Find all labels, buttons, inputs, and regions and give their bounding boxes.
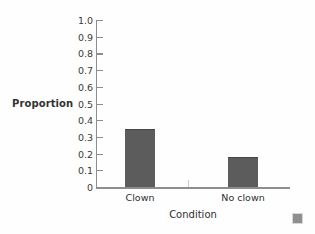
y-tick-mark	[97, 70, 103, 71]
y-tick-0p8: 0.8	[58, 48, 103, 59]
y-tick-mark	[97, 120, 103, 121]
y-tick-mark	[97, 170, 103, 171]
y-tick-label: 0.1	[78, 165, 93, 176]
y-tick-label: 0.4	[78, 115, 93, 126]
y-tick-label: 0.5	[78, 99, 93, 110]
y-tick-0p2: 0.2	[58, 149, 103, 160]
y-tick-label: 0.8	[78, 48, 93, 59]
y-tick-mark	[97, 104, 103, 105]
y-tick-0p3: 0.3	[58, 132, 103, 143]
y-tick-0: 0	[58, 182, 103, 193]
plot-area: 1.0 0.9 0.8 0.7 0.6 0.5 0.4 0.3	[0, 0, 315, 234]
y-tick-label: 0.9	[78, 32, 93, 43]
bar-chart-figure: Proportion 1.0 0.9 0.8 0.7 0.6 0.5	[0, 0, 315, 234]
y-tick-label: 0	[87, 182, 93, 193]
y-tick-0p9: 0.9	[58, 32, 103, 43]
y-tick-0p6: 0.6	[58, 82, 103, 93]
x-category-label-clown: Clown	[100, 192, 180, 203]
y-tick-label: 0.3	[78, 132, 93, 143]
y-tick-mark	[97, 37, 103, 38]
x-axis-title: Condition	[96, 209, 290, 220]
y-tick-mark	[97, 20, 103, 21]
y-tick-mark	[97, 137, 103, 138]
y-tick-mark	[97, 87, 103, 88]
y-tick-label: 0.7	[78, 65, 93, 76]
y-tick-mark	[97, 154, 103, 155]
bar-no-clown	[228, 157, 258, 187]
y-tick-0p4: 0.4	[58, 115, 103, 126]
page-corner-marker	[292, 213, 303, 224]
y-tick-label: 1.0	[78, 15, 93, 26]
bar-clown	[125, 129, 155, 187]
y-tick-label: 0.6	[78, 82, 93, 93]
x-axis-line	[96, 187, 290, 189]
y-tick-1p0: 1.0	[58, 15, 103, 26]
y-tick-0p5: 0.5	[58, 99, 103, 110]
y-tick-0p1: 0.1	[58, 165, 103, 176]
y-tick-mark	[97, 53, 103, 54]
x-category-label-no-clown: No clown	[203, 192, 283, 203]
x-axis-minor-tick	[188, 180, 189, 187]
y-tick-label: 0.2	[78, 149, 93, 160]
y-tick-0p7: 0.7	[58, 65, 103, 76]
